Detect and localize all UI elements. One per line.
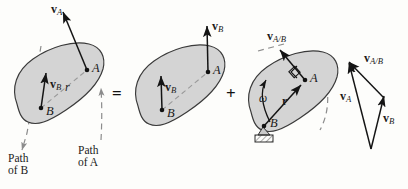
- label-path-of-b: Path of B: [8, 152, 28, 176]
- label-path-of-a: Path of A: [78, 144, 98, 168]
- point-b-dot-translation: [160, 108, 165, 113]
- label-velocity-a-panel1: vA: [51, 3, 62, 17]
- point-a-dot-translation: [206, 70, 211, 75]
- label-point-a-panel1: A: [92, 62, 100, 75]
- label-point-a-panel2: A: [213, 64, 221, 77]
- label-r-panel1: r: [65, 81, 70, 94]
- label-triangle-vector-ab: vA/B: [364, 52, 383, 66]
- velocity-vector-b-at-b-arrow: [161, 76, 162, 110]
- label-velocity-b-at-a-panel2: vB: [212, 20, 223, 34]
- point-a-dot-rotation: [303, 78, 308, 83]
- point-a-dot: [85, 68, 90, 73]
- rigid-body-outline-translation: [136, 45, 225, 126]
- label-point-b-panel3: B: [270, 117, 278, 130]
- panel-vector-triangle: [349, 62, 384, 149]
- label-velocity-b-panel1: vB: [50, 78, 61, 92]
- path-of-a-line1: Path: [78, 144, 98, 156]
- point-b-dot: [39, 106, 44, 111]
- label-point-b-panel1: B: [46, 105, 54, 118]
- label-r-panel3: r: [282, 95, 287, 108]
- plus-operator: +: [226, 85, 236, 103]
- path-of-a-line2: of A: [78, 156, 98, 168]
- label-triangle-vector-a: vA: [340, 90, 351, 104]
- path-of-a-dashed-line: [101, 88, 102, 140]
- label-point-a-panel3: A: [310, 72, 318, 85]
- triangle-vector-a-arrow: [349, 63, 371, 149]
- label-velocity-b-at-b-panel2: vB: [165, 81, 176, 95]
- velocity-vector-b-at-a-arrow: [207, 26, 208, 72]
- equals-operator: =: [112, 85, 122, 103]
- panel-translation: [136, 26, 225, 126]
- triangle-vector-ab-arrow: [349, 62, 384, 98]
- label-omega-panel3: ω: [259, 92, 267, 104]
- path-of-b-line1: Path: [8, 152, 28, 164]
- label-triangle-vector-b: vB: [383, 112, 394, 126]
- label-relative-velocity-ab-panel3: vA/B: [267, 30, 286, 44]
- label-point-b-panel2: B: [167, 107, 175, 120]
- point-b-dot-rotation: [262, 124, 267, 129]
- path-of-b-line2: of B: [8, 164, 28, 176]
